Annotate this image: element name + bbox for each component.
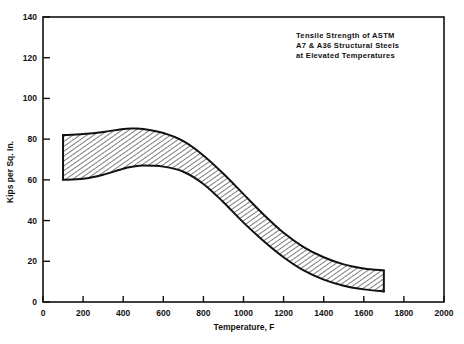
x-tick-label: 1200: [274, 308, 293, 318]
tensile-strength-chart: 0200400600800100012001400160018002000 02…: [0, 0, 464, 344]
x-tick-label: 1000: [234, 308, 253, 318]
y-axis-title: Kips per Sq. In.: [5, 141, 15, 203]
y-tick-label: 60: [28, 175, 38, 185]
x-tick-label: 1400: [314, 308, 333, 318]
x-tick-label: 1600: [354, 308, 373, 318]
x-axis-tick-labels: 0200400600800100012001400160018002000: [41, 308, 454, 318]
x-tick-label: 800: [196, 308, 210, 318]
tensile-strength-band: [63, 128, 384, 291]
y-axis-ticks: [43, 17, 50, 302]
x-tick-label: 1800: [394, 308, 413, 318]
chart-title-line-1: Tensile Strength of ASTM: [296, 31, 395, 40]
chart-title-line-3: at Elevated Temperatures: [296, 51, 395, 60]
y-tick-label: 140: [23, 12, 37, 22]
chart-container: 0200400600800100012001400160018002000 02…: [0, 0, 464, 344]
y-tick-label: 40: [28, 216, 38, 226]
y-tick-label: 80: [28, 134, 38, 144]
y-tick-label: 20: [28, 256, 38, 266]
x-tick-label: 0: [41, 308, 46, 318]
x-axis-title: Temperature, F: [214, 322, 275, 332]
y-tick-label: 100: [23, 93, 37, 103]
x-tick-label: 200: [76, 308, 90, 318]
chart-title-line-2: A7 & A36 Structural Steels: [296, 41, 399, 50]
y-tick-label: 0: [32, 297, 37, 307]
x-axis-ticks: [43, 296, 444, 302]
x-tick-label: 2000: [435, 308, 454, 318]
y-tick-label: 120: [23, 53, 37, 63]
x-tick-label: 400: [116, 308, 130, 318]
y-axis-tick-labels: 020406080100120140: [23, 12, 37, 307]
x-tick-label: 600: [156, 308, 170, 318]
